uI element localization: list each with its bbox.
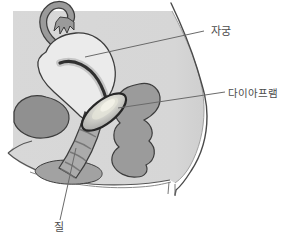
medical-illustration: 자궁 다이아프램 질 <box>0 0 282 242</box>
anatomy-cross-section-svg: 자궁 다이아프램 질 <box>0 0 282 242</box>
thigh-line-left <box>168 182 169 194</box>
vagina-label: 질 <box>54 221 64 233</box>
uterus-label: 자궁 <box>211 25 231 37</box>
diaphragm-label: 다이아프램 <box>228 87 278 99</box>
